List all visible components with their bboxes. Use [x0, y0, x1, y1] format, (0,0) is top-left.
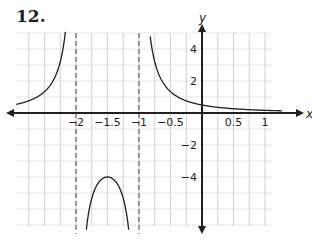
curve-left-branch — [16, 32, 65, 104]
y-tick-label: −2 — [181, 139, 197, 152]
y-tick-label: −4 — [181, 171, 197, 184]
curve-right-branch — [150, 36, 282, 110]
y-axis-label: y — [198, 11, 207, 25]
x-tick-label: −1 — [131, 116, 147, 129]
x-axis-arrow-right — [296, 109, 304, 117]
tick-labels: −2−1.5−1−0.50.5142−2−4xy — [68, 11, 312, 184]
y-axis-arrow-down — [198, 226, 206, 234]
x-axis-arrow-left — [6, 109, 14, 117]
graph: −2−1.5−1−0.50.5142−2−4xy — [0, 0, 312, 241]
y-axis-arrow-up — [198, 24, 206, 32]
x-tick-label: 1 — [262, 116, 269, 129]
x-tick-label: −2 — [68, 116, 84, 129]
x-axis-label: x — [305, 107, 312, 121]
function-curves — [16, 32, 282, 230]
y-tick-label: 2 — [190, 75, 197, 88]
x-tick-label: 0.5 — [225, 116, 243, 129]
x-tick-label: −1.5 — [94, 116, 121, 129]
y-tick-label: 4 — [190, 43, 197, 56]
x-tick-label: −0.5 — [157, 116, 184, 129]
grid-lines — [16, 33, 272, 226]
